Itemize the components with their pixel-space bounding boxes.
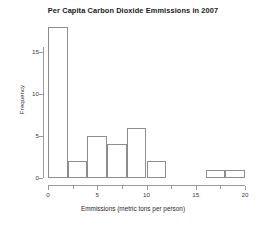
y-axis-tick: [39, 178, 43, 179]
y-axis-tick-label-wrap: 5: [21, 133, 39, 140]
y-axis-tick-label-wrap: 0: [21, 175, 39, 182]
y-axis-tick: [39, 94, 43, 95]
y-axis-tick-label-wrap: 15: [21, 49, 39, 56]
histogram-bar: [127, 128, 147, 178]
x-axis-tick: [48, 186, 49, 190]
x-axis-tick-label: 5: [87, 191, 107, 198]
y-axis-tick: [39, 136, 43, 137]
x-axis-minor-tick: [122, 186, 123, 189]
y-axis-tick-label-wrap: 10: [21, 91, 39, 98]
plot-area: [48, 27, 245, 178]
x-axis-tick: [147, 186, 148, 190]
y-axis-tick-label: 5: [25, 133, 39, 139]
x-axis-tick: [196, 186, 197, 190]
y-axis-title: Frequency: [18, 70, 25, 130]
x-axis-minor-tick: [171, 186, 172, 189]
chart-title: Per Capita Carbon Dioxide Emmissions in …: [0, 6, 266, 15]
x-axis-tick-label: 0: [38, 191, 58, 198]
y-axis-tick-label: 0: [25, 175, 39, 181]
histogram-bar: [225, 170, 245, 178]
x-axis-minor-tick: [73, 186, 74, 189]
x-axis-tick-label: 10: [137, 191, 157, 198]
x-axis-title: Emmissions (metric tons per person): [0, 205, 266, 212]
histogram-bar: [147, 161, 167, 178]
histogram-bar: [87, 136, 107, 178]
histogram-bar: [68, 161, 88, 178]
x-axis-minor-tick: [220, 186, 221, 189]
x-axis-tick-label: 15: [186, 191, 206, 198]
histogram-bar: [48, 27, 68, 178]
histogram-bar: [206, 170, 226, 178]
x-axis-tick: [245, 186, 246, 190]
y-axis-tick-label: 15: [25, 49, 39, 55]
x-axis-tick-label: 20: [235, 191, 255, 198]
histogram-figure: Per Capita Carbon Dioxide Emmissions in …: [0, 0, 266, 232]
y-axis-line: [43, 47, 44, 178]
y-axis-tick: [39, 52, 43, 53]
x-axis-tick: [97, 186, 98, 190]
histogram-bar: [107, 144, 127, 178]
y-axis-tick-label: 10: [25, 91, 39, 97]
